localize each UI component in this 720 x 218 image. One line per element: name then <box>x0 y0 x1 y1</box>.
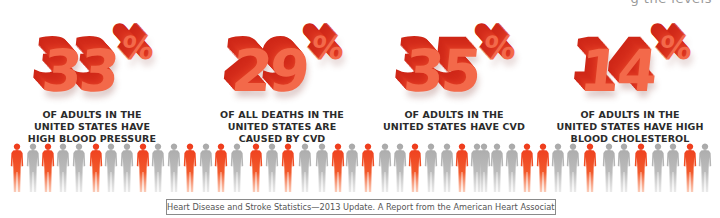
person-silhouette-icon <box>166 142 182 194</box>
person-silhouette-icon <box>650 142 666 194</box>
person-silhouette-icon <box>665 142 681 194</box>
person-silhouette-icon <box>697 142 713 194</box>
person-silhouette-highlighted-icon <box>633 142 649 194</box>
stat-caption: OF ADULTS IN THE UNITED STATES HAVE HIGH… <box>540 109 720 145</box>
person-silhouette-icon <box>601 142 617 194</box>
person-silhouette-highlighted-icon <box>135 142 151 194</box>
person-silhouette-icon <box>119 142 135 194</box>
stat-number: 29 % <box>192 20 372 104</box>
person-silhouette-icon <box>150 142 166 194</box>
person-silhouette-highlighted-icon <box>280 142 296 194</box>
person-silhouette-highlighted-icon <box>682 142 698 194</box>
person-silhouette-icon <box>314 142 330 194</box>
percent-sign: % <box>310 32 345 64</box>
person-silhouette-icon <box>55 142 71 194</box>
person-silhouette-highlighted-icon <box>535 142 551 194</box>
person-silhouette-icon <box>565 142 581 194</box>
person-silhouette-icon <box>297 142 313 194</box>
person-silhouette-icon <box>616 142 632 194</box>
stat-adults-with-cvd: 35 % OF ADULTS IN THE UNITED STATES HAVE… <box>364 14 544 140</box>
person-silhouette-highlighted-icon <box>360 142 376 194</box>
person-silhouette-icon <box>264 142 280 194</box>
person-silhouette-highlighted-icon <box>88 142 104 194</box>
percent-sign: % <box>482 32 517 64</box>
person-silhouette-icon <box>377 142 393 194</box>
person-silhouette-highlighted-icon <box>519 142 535 194</box>
statistics-row: 33 % OF ADULTS IN THE UNITED STATES HAVE… <box>0 0 720 140</box>
percent-sign: % <box>658 32 693 64</box>
person-silhouette-icon <box>198 142 214 194</box>
person-silhouette-highlighted-icon <box>454 142 470 194</box>
stat-caption: OF ALL DEATHS IN THE UNITED STATES ARE C… <box>192 109 372 145</box>
stat-deaths-by-cvd: 29 % OF ALL DEATHS IN THE UNITED STATES … <box>192 14 372 140</box>
person-silhouette-highlighted-icon <box>213 142 229 194</box>
person-silhouette-highlighted-icon <box>407 142 423 194</box>
stat-value: 14 <box>577 42 658 100</box>
source-citation: Heart Disease and Stroke Statistics—2013… <box>166 199 556 215</box>
person-silhouette-icon <box>439 142 455 194</box>
person-silhouette-icon <box>392 142 408 194</box>
stat-number: 33 % <box>2 20 182 104</box>
stat-caption: OF ADULTS IN THE UNITED STATES HAVE HIGH… <box>2 109 182 145</box>
person-silhouette-icon <box>489 142 505 194</box>
person-silhouette-icon <box>103 142 119 194</box>
person-silhouette-highlighted-icon <box>182 142 198 194</box>
person-silhouette-icon <box>25 142 41 194</box>
person-silhouette-icon <box>344 142 360 194</box>
stat-value: 29 <box>229 42 310 100</box>
stat-value: 33 <box>39 42 120 100</box>
stat-number: 35 % <box>364 20 544 104</box>
person-silhouette-icon <box>550 142 566 194</box>
person-silhouette-highlighted-icon <box>40 142 56 194</box>
percent-sign: % <box>120 32 155 64</box>
stat-value: 35 <box>401 42 482 100</box>
stat-number: 14 % <box>540 20 720 104</box>
person-silhouette-icon <box>423 142 439 194</box>
person-silhouette-highlighted-icon <box>9 142 25 194</box>
person-silhouette-icon <box>71 142 87 194</box>
person-silhouette-icon <box>504 142 520 194</box>
stat-high-blood-pressure: 33 % OF ADULTS IN THE UNITED STATES HAVE… <box>2 14 182 140</box>
stat-caption: OF ADULTS IN THE UNITED STATES HAVE CVD <box>364 109 544 133</box>
person-silhouette-highlighted-icon <box>582 142 598 194</box>
person-silhouette-icon <box>229 142 245 194</box>
person-silhouette-highlighted-icon <box>248 142 264 194</box>
stat-high-cholesterol: 14 % OF ADULTS IN THE UNITED STATES HAVE… <box>540 14 720 140</box>
people-silhouettes-row <box>0 142 720 194</box>
